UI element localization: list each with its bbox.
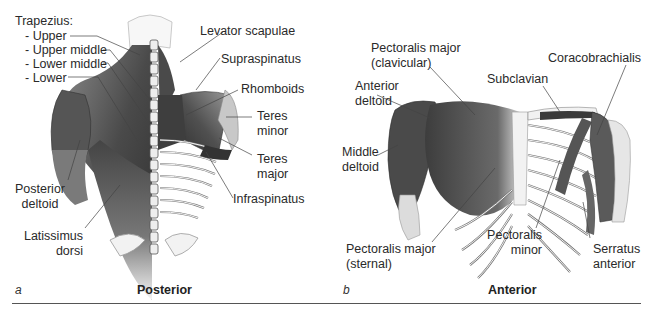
label-pec-major-clavicular-line1: Pectoralis major (371, 41, 461, 56)
panel-letter-a: a (15, 283, 22, 297)
label-coracobrachialis: Coracobrachialis (548, 51, 641, 66)
label-middle-deltoid-line2: deltoid (342, 160, 379, 175)
label-latissimus-dorsi-line2: dorsi (20, 244, 83, 259)
label-supraspinatus: Supraspinatus (221, 52, 301, 67)
label-teres-minor-line2: minor (257, 124, 288, 139)
label-anterior-deltoid-line1: Anterior (355, 79, 399, 94)
label-trapezius-lower-middle: - Lower middle (25, 57, 107, 72)
label-pec-major-clavicular-line2: (clavicular) (371, 56, 431, 71)
label-middle-deltoid-line1: Middle (342, 145, 379, 160)
shoulder-muscles-figure: Trapezius: - Upper - Upper middle - Lowe… (0, 0, 653, 316)
label-trapezius-upper-middle: - Upper middle (25, 43, 107, 58)
label-teres-major-line2: major (257, 167, 288, 182)
label-posterior-deltoid-line2: deltoid (14, 197, 66, 212)
label-pec-major-sternal-line1: Pectoralis major (346, 242, 436, 257)
label-latissimus-dorsi-line1: Latissimus (20, 229, 83, 244)
bottom-divider (12, 303, 641, 304)
panel-title-anterior: Anterior (488, 283, 537, 297)
label-levator-scapulae: Levator scapulae (200, 24, 295, 39)
label-trapezius-lower: - Lower (25, 71, 67, 86)
label-pec-minor-line2: minor (480, 243, 542, 258)
label-posterior-deltoid-line1: Posterior (14, 182, 66, 197)
label-anterior-deltoid-line2: deltoid (355, 94, 392, 109)
panel-letter-b: b (343, 283, 350, 297)
label-subclavian: Subclavian (487, 72, 548, 87)
panel-title-posterior: Posterior (137, 283, 192, 297)
label-teres-major-line1: Teres (257, 152, 288, 167)
label-serratus-anterior-line1: Serratus (593, 242, 640, 257)
label-trapezius-upper: - Upper (25, 29, 67, 44)
label-teres-minor-line1: Teres (257, 109, 288, 124)
label-trapezius: Trapezius: (15, 14, 73, 29)
label-pec-major-sternal-line2: (sternal) (346, 257, 392, 272)
label-infraspinatus: Infraspinatus (233, 192, 305, 207)
label-serratus-anterior-line2: anterior (593, 257, 635, 272)
label-pec-minor-line1: Pectoralis (480, 228, 542, 243)
label-rhomboids: Rhomboids (241, 82, 304, 97)
